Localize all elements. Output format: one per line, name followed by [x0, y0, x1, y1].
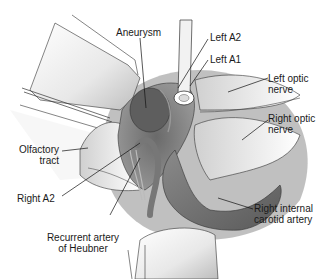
- label-recurrent-artery-line1: Recurrent artery: [42, 232, 124, 243]
- label-right-ica-line1: Right internal: [254, 203, 313, 214]
- lower-retractor: [128, 228, 218, 279]
- label-left-optic-nerve-line2: nerve: [268, 84, 309, 95]
- label-right-a2: Right A2: [17, 193, 55, 204]
- label-olfactory-tract-line2: tract: [15, 155, 59, 166]
- label-right-optic-nerve-line2: nerve: [268, 124, 315, 135]
- label-left-a2: Left A2: [210, 32, 241, 43]
- label-right-ica-line2: carotid artery: [254, 214, 313, 225]
- label-aneurysm-text: Aneurysm: [116, 27, 161, 38]
- label-right-optic-nerve-line1: Right optic: [268, 113, 315, 124]
- label-left-a2-text: Left A2: [210, 32, 241, 43]
- label-olfactory-tract: Olfactory tract: [15, 144, 59, 166]
- label-recurrent-artery-line2: of Heubner: [42, 243, 124, 254]
- label-left-a1: Left A1: [210, 54, 241, 65]
- label-right-optic-nerve: Right optic nerve: [268, 113, 315, 135]
- label-aneurysm: Aneurysm: [116, 27, 161, 38]
- label-right-a2-text: Right A2: [17, 193, 55, 204]
- label-left-a1-text: Left A1: [210, 54, 241, 65]
- label-left-optic-nerve-line1: Left optic: [268, 73, 309, 84]
- label-right-ica: Right internal carotid artery: [254, 203, 313, 225]
- label-recurrent-artery: Recurrent artery of Heubner: [42, 232, 124, 254]
- label-left-optic-nerve: Left optic nerve: [268, 73, 309, 95]
- label-olfactory-tract-line1: Olfactory: [15, 144, 59, 155]
